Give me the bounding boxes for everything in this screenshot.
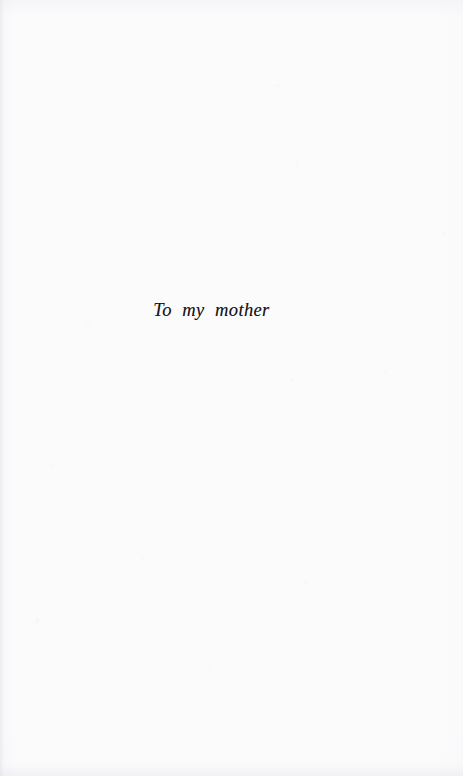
paper-tone-overlay [0, 0, 463, 776]
dedication-text: To my mother [153, 299, 269, 321]
dedication-block: To my mother [0, 299, 463, 321]
dedication-page: To my mother [0, 0, 463, 776]
paper-grain-overlay [0, 0, 463, 776]
